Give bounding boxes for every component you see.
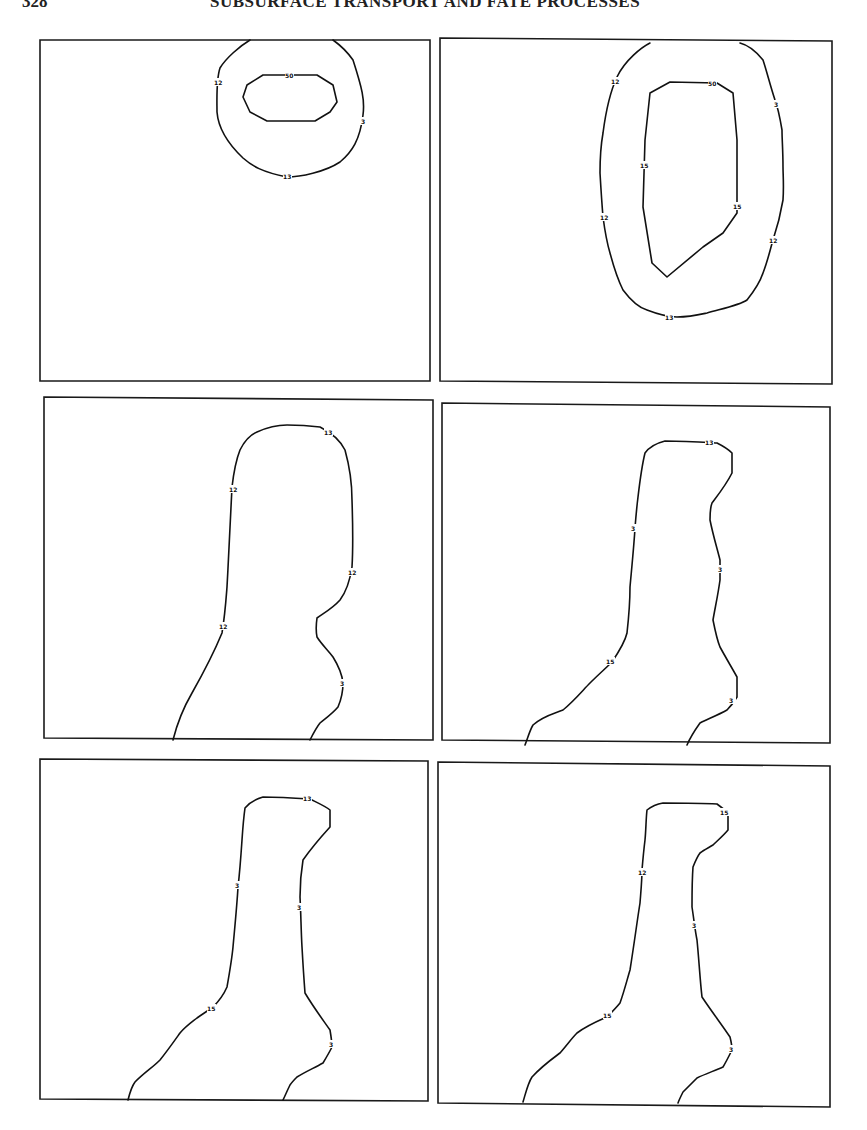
svg-text:15: 15 (640, 162, 648, 169)
contour-label: 3 (360, 117, 368, 125)
contour-label: 3 (773, 100, 781, 108)
contour-label: 13 (705, 438, 714, 446)
svg-text:12: 12 (638, 869, 646, 876)
contour-inner (243, 75, 337, 121)
panel-frame (442, 403, 830, 743)
contour-label: 50 (285, 71, 294, 79)
svg-text:50: 50 (708, 80, 716, 87)
svg-text:15: 15 (720, 809, 728, 816)
svg-text:13: 13 (283, 173, 291, 180)
panel-frame (44, 397, 433, 740)
svg-text:13: 13 (303, 795, 311, 802)
contour-outer (217, 40, 364, 177)
panel-4: 13 3 3 15 3 (442, 403, 830, 745)
contour-line (173, 425, 353, 740)
contour-label: 15 (720, 808, 729, 816)
svg-text:12: 12 (769, 237, 777, 244)
svg-text:15: 15 (207, 1005, 215, 1012)
panel-3: 13 12 12 12 3 (44, 397, 433, 740)
panel-6: 15 12 3 15 3 (438, 762, 830, 1107)
contour-label: 3 (691, 921, 699, 929)
svg-text:3: 3 (729, 697, 733, 704)
contour-label: 12 (769, 236, 777, 244)
svg-text:12: 12 (219, 623, 227, 630)
svg-text:15: 15 (603, 1012, 611, 1019)
svg-text:3: 3 (297, 904, 301, 911)
contour-label: 3 (728, 1045, 736, 1053)
contour-figure: 12 50 3 13 12 50 3 15 15 12 12 13 13 12 … (0, 0, 867, 1130)
svg-text:12: 12 (611, 78, 619, 85)
svg-text:3: 3 (718, 566, 722, 573)
svg-text:12: 12 (229, 486, 237, 493)
svg-text:3: 3 (631, 525, 635, 532)
contour-label: 3 (296, 903, 304, 911)
contour-label: 3 (234, 881, 242, 889)
panel-frame (40, 40, 430, 381)
contour-label: 3 (728, 696, 736, 704)
contour-label: 13 (665, 313, 674, 321)
panel-frame (438, 762, 830, 1107)
panel-1: 12 50 3 13 (40, 40, 430, 381)
svg-text:12: 12 (600, 214, 608, 221)
contour-label: 13 (283, 172, 292, 180)
svg-text:3: 3 (774, 101, 778, 108)
contour-label: 12 (219, 622, 227, 630)
svg-text:3: 3 (361, 118, 365, 125)
svg-text:12: 12 (214, 79, 222, 86)
panel-5: 13 3 3 15 3 (40, 759, 428, 1101)
contour-label: 12 (637, 868, 646, 876)
svg-text:15: 15 (733, 203, 741, 210)
panel-2: 12 50 3 15 15 12 12 13 (440, 38, 832, 384)
contour-line (128, 797, 332, 1100)
svg-text:12: 12 (348, 569, 356, 576)
contour-label: 12 (348, 568, 356, 576)
contour-label: 15 (606, 657, 615, 665)
contour-line (525, 441, 737, 745)
contour-label: 3 (717, 565, 725, 573)
svg-text:13: 13 (324, 429, 332, 436)
svg-text:50: 50 (285, 72, 293, 79)
contour-label: 3 (630, 524, 638, 532)
contour-label: 3 (339, 679, 347, 687)
contour-line (523, 803, 732, 1103)
svg-text:15: 15 (606, 658, 614, 665)
contour-label: 15 (733, 202, 741, 210)
svg-text:3: 3 (235, 882, 239, 889)
svg-text:13: 13 (705, 439, 713, 446)
contour-label: 15 (603, 1011, 612, 1019)
contour-label: 13 (303, 794, 312, 802)
contour-label: 12 (600, 213, 608, 221)
svg-text:3: 3 (729, 1046, 733, 1053)
svg-text:3: 3 (340, 680, 344, 687)
svg-text:3: 3 (329, 1041, 333, 1048)
contour-label: 15 (640, 161, 648, 169)
contour-label: 12 (229, 485, 237, 493)
contour-label: 3 (328, 1040, 336, 1048)
panel-frame (440, 38, 832, 384)
contour-label: 15 (207, 1004, 216, 1012)
contour-label: 12 (213, 78, 222, 86)
contour-inner (643, 82, 737, 277)
contour-label: 50 (708, 79, 717, 87)
contour-label: 12 (610, 77, 619, 85)
svg-text:13: 13 (665, 314, 673, 321)
contour-outer (600, 43, 783, 317)
svg-text:3: 3 (692, 922, 696, 929)
contour-label: 13 (324, 428, 333, 436)
